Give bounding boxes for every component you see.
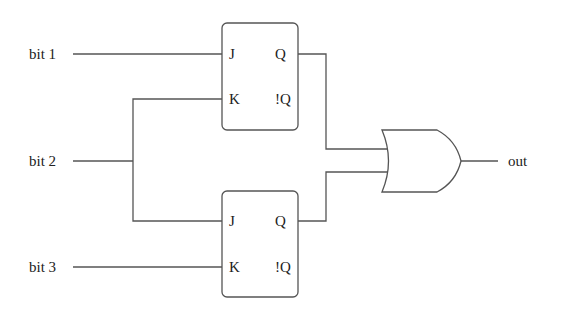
pin-nq-bottom: !Q xyxy=(275,259,291,275)
flip-flop-bottom: J K Q !Q xyxy=(222,191,298,297)
pin-q-bottom: Q xyxy=(275,213,286,229)
input-label-bit1: bit 1 xyxy=(29,46,56,62)
circuit-diagram: bit 1 bit 2 bit 3 J K Q !Q J K Q !Q out xyxy=(0,0,563,318)
pin-q-top: Q xyxy=(275,46,286,62)
or-gate xyxy=(382,130,461,192)
pin-j-bottom: J xyxy=(229,213,235,229)
pin-k-bottom: K xyxy=(229,259,240,275)
flip-flop-top: J K Q !Q xyxy=(222,23,298,130)
flip-flop-top-body xyxy=(222,23,298,130)
wire-bottom-q-to-or xyxy=(298,172,388,221)
pin-j-top: J xyxy=(229,46,235,62)
wire-bit2-to-k-and-j xyxy=(133,99,222,221)
wire-top-q-to-or xyxy=(298,54,388,149)
output-label: out xyxy=(508,153,528,169)
pin-k-top: K xyxy=(229,91,240,107)
input-label-bit3: bit 3 xyxy=(29,259,56,275)
input-label-bit2: bit 2 xyxy=(29,153,56,169)
flip-flop-bottom-body xyxy=(222,191,298,297)
pin-nq-top: !Q xyxy=(275,91,291,107)
